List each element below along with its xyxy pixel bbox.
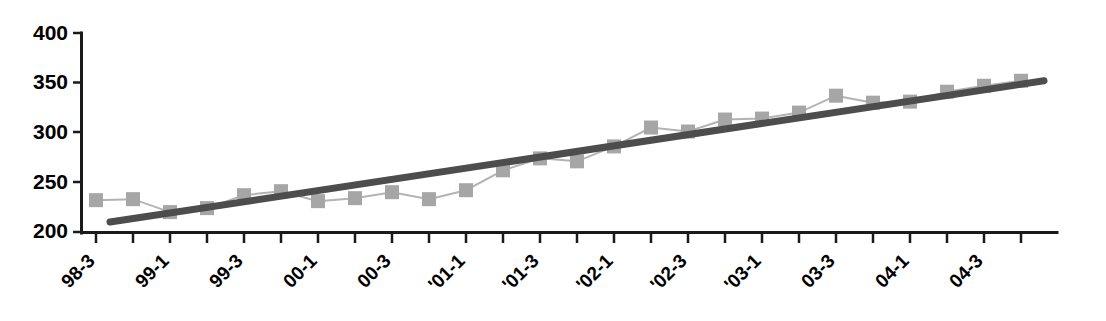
data-point-marker (829, 89, 843, 103)
y-tick-label-300: 300 (33, 120, 68, 143)
data-point-marker (348, 191, 362, 205)
data-point-marker (422, 192, 436, 206)
data-point-marker (311, 194, 325, 208)
data-point-marker (644, 121, 658, 135)
trend-chart: 400 350 300 250 200 (0, 0, 1106, 321)
chart-background (0, 0, 1106, 321)
data-point-marker (718, 113, 732, 127)
data-point-marker (459, 183, 473, 197)
data-point-marker (126, 192, 140, 206)
chart-canvas: 400 350 300 250 200 (0, 0, 1106, 321)
data-point-marker (89, 193, 103, 207)
y-tick-label-350: 350 (33, 70, 68, 93)
data-point-marker (570, 154, 584, 168)
y-tick-label-200: 200 (33, 219, 68, 242)
y-tick-label-250: 250 (33, 170, 68, 193)
y-tick-label-400: 400 (33, 21, 68, 44)
data-point-marker (385, 185, 399, 199)
